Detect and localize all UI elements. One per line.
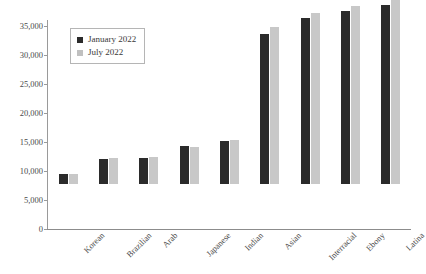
x-axis-label: Asian	[283, 231, 303, 251]
bar-july	[311, 13, 320, 184]
x-axis-labels: KoreanBrazilianArabJapaneseIndianAsianIn…	[48, 231, 411, 274]
bar-january	[220, 141, 229, 184]
legend-label: July 2022	[88, 47, 123, 58]
bar-july	[391, 0, 400, 184]
bar-january	[341, 11, 350, 184]
y-tick-label: 5,000	[24, 196, 43, 205]
x-axis-label: Ebony	[364, 231, 386, 253]
bar-january	[99, 159, 108, 184]
legend-entry-january: January 2022	[77, 33, 136, 46]
legend: January 2022 July 2022	[70, 28, 145, 64]
july-swatch-icon	[77, 50, 83, 56]
january-swatch-icon	[77, 37, 83, 43]
x-axis-label: Korean	[82, 231, 106, 255]
bar-july	[109, 158, 118, 184]
y-tick-label: 25,000	[20, 80, 43, 89]
x-axis-label: Latina	[404, 231, 426, 253]
bar-january	[301, 18, 310, 184]
bar-january	[59, 174, 68, 184]
y-tick-label: 20,000	[20, 109, 43, 118]
bar-january	[260, 34, 269, 184]
x-axis-label: Japanese	[205, 231, 233, 259]
bar-july	[149, 157, 158, 184]
bar-july	[270, 27, 279, 184]
x-axis-label: Arab	[161, 231, 179, 249]
y-tick-label: 35,000	[20, 22, 43, 31]
y-tick-label: 15,000	[20, 138, 43, 147]
y-tick-label: 0	[39, 225, 43, 234]
x-axis-label: Interracial	[327, 231, 358, 262]
bar-july	[351, 6, 360, 184]
bar-july	[230, 140, 239, 184]
bar-july	[190, 147, 199, 184]
bar-january	[381, 5, 390, 184]
y-tick-label: 10,000	[20, 167, 43, 176]
bar-january	[180, 146, 189, 184]
x-axis-label: Indian	[243, 231, 265, 253]
legend-label: January 2022	[88, 34, 136, 45]
y-axis-tick-labels: 0 5,000 10,000 15,000 20,000 25,000 30,0…	[0, 0, 43, 274]
x-axis-line	[47, 229, 411, 230]
x-axis-label: Brazilian	[125, 231, 153, 259]
legend-entry-july: July 2022	[77, 46, 136, 59]
bar-july	[69, 174, 78, 184]
bar-january	[139, 158, 148, 184]
y-tick-label: 30,000	[20, 51, 43, 60]
